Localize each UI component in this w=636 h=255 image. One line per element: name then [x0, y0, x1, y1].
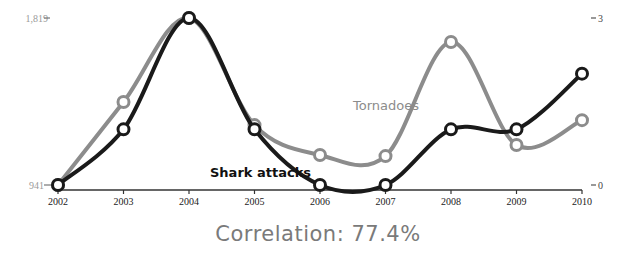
x-axis-tick-label: 2009 [507, 196, 527, 207]
left-y-axis: 1,819 941 [26, 13, 52, 191]
shark-attacks-series [53, 13, 588, 192]
x-axis-tick-label: 2010 [572, 196, 592, 207]
shark-attacks-data-point[interactable] [118, 124, 129, 135]
tornadoes-data-point[interactable] [380, 151, 391, 162]
right-axis-min-label: 0 [598, 180, 603, 191]
x-axis-tick-label: 2006 [310, 196, 330, 207]
tornadoes-data-point[interactable] [315, 149, 326, 160]
line-chart: 200220032004200520062007200820092010 1,8… [0, 0, 636, 255]
shark-attacks-line [58, 18, 582, 192]
shark-attacks-label: Shark attacks [210, 165, 311, 180]
tornadoes-data-point[interactable] [577, 115, 588, 126]
tornadoes-data-point[interactable] [446, 36, 457, 47]
shark-attacks-data-point[interactable] [184, 13, 195, 24]
x-axis-tick-label: 2002 [48, 196, 68, 207]
right-y-axis: 3 0 [591, 13, 603, 191]
shark-attacks-data-point[interactable] [577, 68, 588, 79]
tornadoes-data-point[interactable] [118, 97, 129, 108]
shark-attacks-data-point[interactable] [249, 124, 260, 135]
right-axis-max-label: 3 [598, 13, 603, 24]
x-axis: 200220032004200520062007200820092010 [48, 190, 592, 207]
x-axis-tick-label: 2005 [245, 196, 265, 207]
shark-attacks-data-point[interactable] [380, 180, 391, 191]
tornadoes-label: Tornadoes [352, 98, 419, 113]
x-axis-tick-label: 2004 [179, 196, 199, 207]
shark-attacks-data-point[interactable] [53, 180, 64, 191]
correlation-annotation: Correlation: 77.4% [0, 222, 636, 246]
shark-attacks-data-point[interactable] [511, 124, 522, 135]
x-axis-tick-label: 2003 [114, 196, 134, 207]
shark-attacks-data-point[interactable] [446, 124, 457, 135]
shark-attacks-data-point[interactable] [315, 180, 326, 191]
x-axis-tick-label: 2007 [376, 196, 396, 207]
x-axis-tick-label: 2008 [441, 196, 461, 207]
tornadoes-data-point[interactable] [511, 140, 522, 151]
left-axis-min-label: 941 [29, 180, 44, 191]
tornadoes-series [53, 13, 588, 191]
